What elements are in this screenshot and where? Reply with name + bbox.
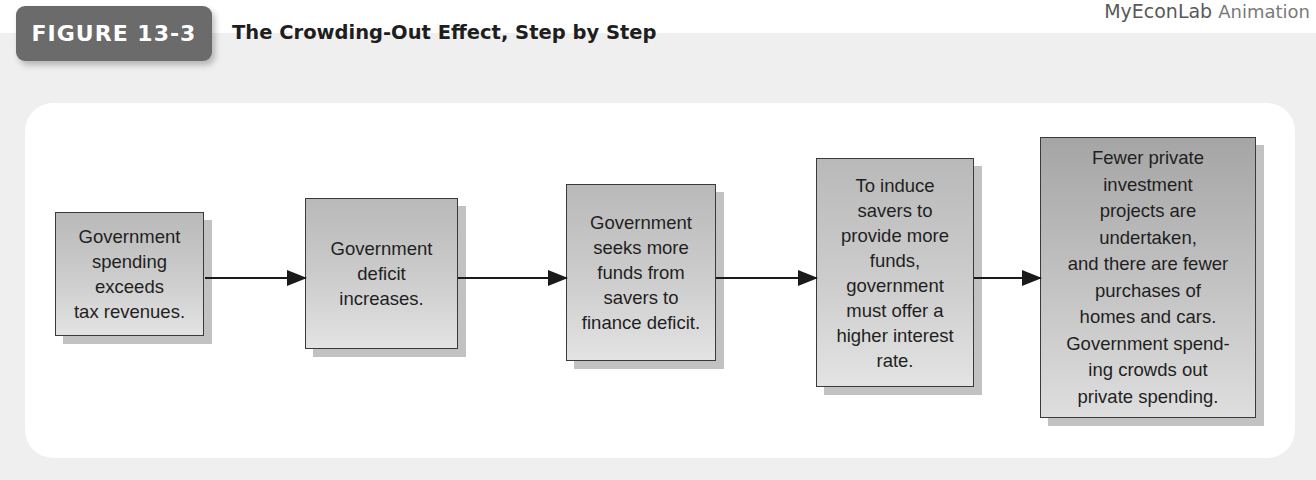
flow-step-1: Government spending exceeds tax revenues… — [55, 212, 204, 336]
flow-step-5: Fewer private investment projects are un… — [1040, 137, 1256, 418]
figure-label-tab: FIGURE 13-3 — [16, 6, 212, 61]
flow-step-2: Government deficit increases. — [305, 198, 458, 349]
brand-main-text: MyEconLab — [1104, 0, 1212, 22]
flow-step-3: Government seeks more funds from savers … — [566, 184, 716, 361]
arrow-right-icon — [205, 277, 306, 279]
brand-label: MyEconLab Animation — [1104, 0, 1310, 22]
flow-step-4: To induce savers to provide more funds, … — [816, 158, 974, 387]
arrow-right-icon — [716, 277, 817, 279]
brand-sub-text: Animation — [1218, 1, 1310, 22]
arrow-right-icon — [974, 277, 1041, 279]
arrow-right-icon — [458, 277, 567, 279]
figure-title: The Crowding-Out Effect, Step by Step — [232, 21, 656, 44]
